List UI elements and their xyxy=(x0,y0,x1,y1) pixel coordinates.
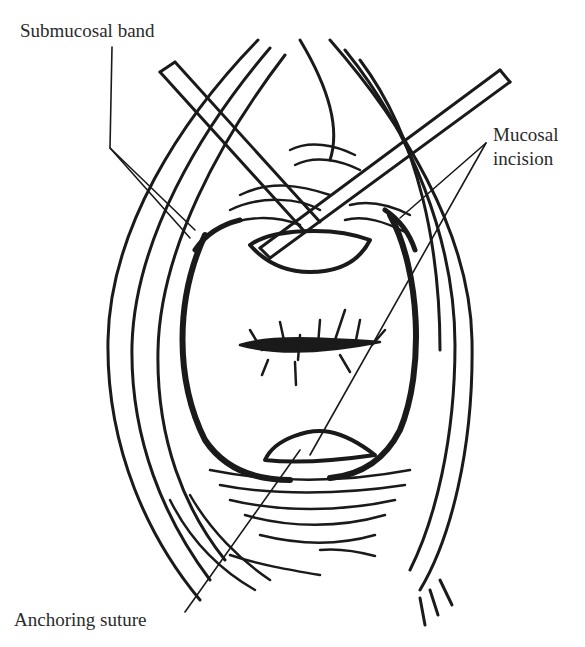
label-mucosal-incision-line2: incision xyxy=(493,147,558,171)
label-mucosal-incision: Mucosal incision xyxy=(493,123,558,171)
label-submucosal-band: Submucosal band xyxy=(20,20,155,41)
leader-submucosal xyxy=(110,47,190,238)
label-anchoring-suture: Anchoring suture xyxy=(14,609,146,630)
leader-lines xyxy=(110,47,486,612)
label-mucosal-incision-line1: Mucosal xyxy=(493,123,558,147)
lower-hatching xyxy=(170,470,410,590)
surgical-illustration: Submucosal band Mucosal incision Anchori… xyxy=(0,0,585,647)
anal-canal xyxy=(240,310,385,385)
upper-incision xyxy=(250,231,370,272)
illustration-drawing xyxy=(0,0,585,647)
